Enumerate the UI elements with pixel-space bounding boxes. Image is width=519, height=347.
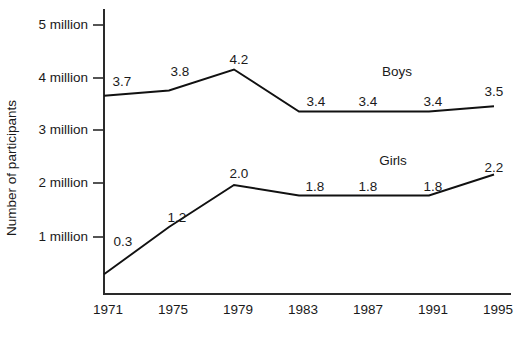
data-label-boys-1991: 3.4 bbox=[424, 94, 443, 109]
y-axis-tick-labels: 5 million 4 million 3 million 2 million … bbox=[38, 17, 88, 244]
data-labels-boys: 3.7 3.8 4.2 3.4 3.4 3.4 3.5 bbox=[113, 52, 504, 109]
series-label-girls: Girls bbox=[379, 153, 407, 168]
chart-canvas: 5 million 4 million 3 million 2 million … bbox=[0, 0, 519, 347]
data-labels-girls: 0.3 1.2 2.0 1.8 1.8 1.8 2.2 bbox=[114, 160, 504, 249]
data-label-girls-1995: 2.2 bbox=[485, 160, 504, 175]
data-label-girls-1983: 1.8 bbox=[306, 179, 325, 194]
x-tick-label-1971: 1971 bbox=[93, 302, 123, 317]
data-label-boys-1979: 4.2 bbox=[230, 52, 249, 67]
y-tick-label-3-million: 3 million bbox=[38, 122, 88, 137]
y-axis-title: Number of participants bbox=[4, 100, 19, 236]
data-label-girls-1991: 1.8 bbox=[424, 179, 443, 194]
data-label-girls-1971: 0.3 bbox=[114, 234, 133, 249]
data-label-boys-1975: 3.8 bbox=[171, 64, 190, 79]
line-chart-figure: 5 million 4 million 3 million 2 million … bbox=[0, 0, 519, 347]
data-label-boys-1987: 3.4 bbox=[359, 94, 378, 109]
y-tick-label-2-million: 2 million bbox=[38, 175, 88, 190]
y-tick-label-4-million: 4 million bbox=[38, 70, 88, 85]
data-label-girls-1979: 2.0 bbox=[230, 166, 249, 181]
data-label-girls-1987: 1.8 bbox=[359, 179, 378, 194]
data-label-boys-1971: 3.7 bbox=[113, 74, 132, 89]
y-tick-label-1-million: 1 million bbox=[38, 229, 88, 244]
x-tick-label-1987: 1987 bbox=[353, 302, 383, 317]
series-label-boys: Boys bbox=[382, 64, 412, 79]
x-tick-label-1983: 1983 bbox=[288, 302, 318, 317]
x-tick-label-1995: 1995 bbox=[483, 302, 513, 317]
x-axis-tick-labels: 1971 1975 1979 1983 1987 1991 1995 bbox=[93, 302, 513, 317]
data-label-boys-1983: 3.4 bbox=[307, 94, 326, 109]
y-axis-ticks bbox=[93, 25, 104, 237]
data-label-girls-1975: 1.2 bbox=[168, 210, 187, 225]
data-label-boys-1995: 3.5 bbox=[485, 84, 504, 99]
y-tick-label-5-million: 5 million bbox=[38, 17, 88, 32]
x-tick-label-1991: 1991 bbox=[418, 302, 448, 317]
x-tick-label-1979: 1979 bbox=[223, 302, 253, 317]
x-tick-label-1975: 1975 bbox=[158, 302, 188, 317]
